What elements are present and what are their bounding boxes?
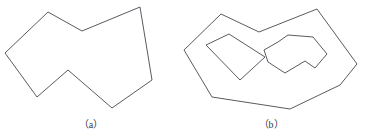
polygon-a-outline — [5, 7, 152, 108]
polygon-b-hole-left — [206, 34, 265, 80]
caption-b: （b） — [254, 119, 288, 130]
polygon-b-hole-right — [264, 35, 327, 73]
polygon-b-outer-boundary — [184, 9, 357, 109]
caption-a: （a） — [74, 119, 108, 130]
polygon-figure-svg — [0, 0, 365, 136]
figure-panel: （a） （b） — [0, 0, 365, 136]
